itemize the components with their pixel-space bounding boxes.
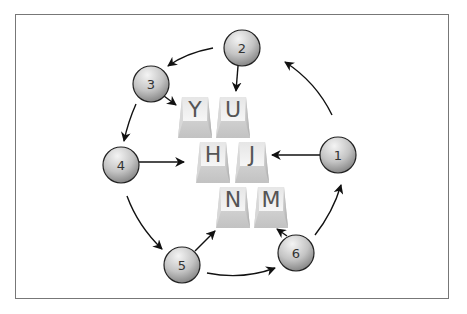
arrow-3-to-Y xyxy=(164,96,176,105)
key-label-J: J xyxy=(247,142,256,167)
node-label-5: 5 xyxy=(178,258,186,273)
node-1: 1 xyxy=(320,137,356,173)
arrow-2-to-3 xyxy=(168,48,213,66)
node-label-6: 6 xyxy=(292,246,300,261)
key-label-Y: Y xyxy=(187,97,202,122)
node-label-2: 2 xyxy=(238,41,246,56)
node-5: 5 xyxy=(164,247,200,283)
keycap-N: N xyxy=(216,187,250,229)
node-4: 4 xyxy=(103,147,139,183)
key-label-N: N xyxy=(225,187,241,212)
node-label-4: 4 xyxy=(117,158,125,173)
keycap-J: J xyxy=(235,142,269,184)
arrow-2-to-U xyxy=(236,66,238,91)
key-label-M: M xyxy=(262,187,281,212)
keycap-H: H xyxy=(196,142,230,184)
key-label-U: U xyxy=(225,97,241,122)
keycap-Y: Y xyxy=(178,97,212,139)
arrow-3-to-4 xyxy=(124,104,136,141)
keycap-M: M xyxy=(254,187,288,229)
arrow-6-to-M xyxy=(277,229,287,236)
node-6: 6 xyxy=(278,235,314,271)
node-3: 3 xyxy=(133,66,169,102)
arrow-5-to-6 xyxy=(207,268,275,276)
arrow-5-to-N xyxy=(195,231,215,251)
key-label-H: H xyxy=(205,142,222,167)
arrow-1-to-2 xyxy=(285,62,332,115)
keycap-U: U xyxy=(216,97,250,139)
cycle-diagram: Y U H J N M xyxy=(0,0,467,314)
node-label-3: 3 xyxy=(147,77,155,92)
node-2: 2 xyxy=(224,30,260,66)
arrow-6-to-1 xyxy=(315,185,341,235)
node-label-1: 1 xyxy=(334,148,342,163)
arrow-4-to-5 xyxy=(127,196,162,249)
